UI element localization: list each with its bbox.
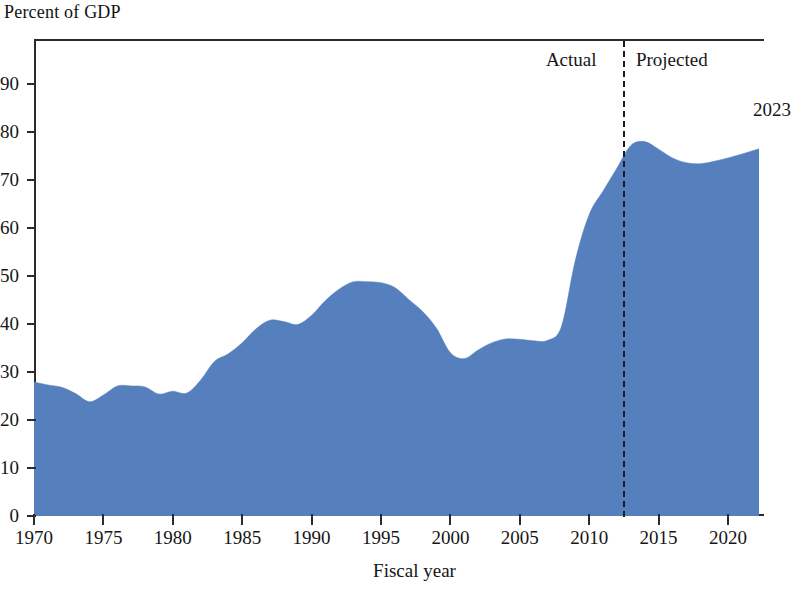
x-axis-tick-label: 2005 [485,527,555,549]
projected-label: Projected [636,49,708,71]
x-axis-tick [380,514,382,525]
x-axis-tick [33,514,35,525]
debt-area-series [34,39,759,516]
y-axis-tick [27,227,36,229]
x-axis-tick [449,514,451,525]
x-axis-tick [658,514,660,525]
x-axis-tick-label: 2020 [693,527,763,549]
y-axis-tick [27,83,36,85]
x-axis-title-text: Fiscal year [373,560,456,581]
chart-title: Percent of GDP [4,1,121,23]
x-axis-tick-label: 1995 [346,527,416,549]
x-axis-tick [311,514,313,525]
x-axis-tick [241,514,243,525]
x-axis-tick-label: 1975 [68,527,138,549]
x-axis-tick-label: 1985 [207,527,277,549]
y-axis-tick-label: 80 [0,122,19,141]
end-year-label: 2023 [753,99,791,121]
x-axis-title: Fiscal year [0,560,759,582]
y-axis-tick-label: 20 [0,410,19,429]
x-axis-tick [172,514,174,525]
y-axis-tick [27,371,36,373]
x-axis-tick-label: 2000 [415,527,485,549]
y-axis-tick [27,419,36,421]
x-axis-tick-label: 1980 [138,527,208,549]
x-axis-tick [102,514,104,525]
y-axis-tick-label: 40 [0,314,19,333]
y-axis-tick [27,179,36,181]
y-axis-tick-label: 30 [0,362,19,381]
actual-projected-divider [623,41,625,517]
x-axis-tick [588,514,590,525]
actual-label: Actual [546,49,597,71]
y-axis-tick-label: 10 [0,458,19,477]
x-axis-tick-label: 2015 [624,527,694,549]
y-axis-tick-label: 90 [0,74,19,93]
y-axis-tick-label: 70 [0,170,19,189]
x-axis-tick [727,514,729,525]
y-axis-tick [27,131,36,133]
x-axis-tick-label: 2010 [554,527,624,549]
x-axis-tick [519,514,521,525]
y-axis-tick [27,323,36,325]
y-axis-tick-label: 0 [0,506,19,525]
y-axis-tick-label: 50 [0,266,19,285]
x-axis-tick-label: 1970 [0,527,69,549]
y-axis-tick-label: 60 [0,218,19,237]
y-axis-tick [27,275,36,277]
plot-area [34,39,759,516]
x-axis-tick-label: 1990 [277,527,347,549]
y-axis-tick [27,467,36,469]
